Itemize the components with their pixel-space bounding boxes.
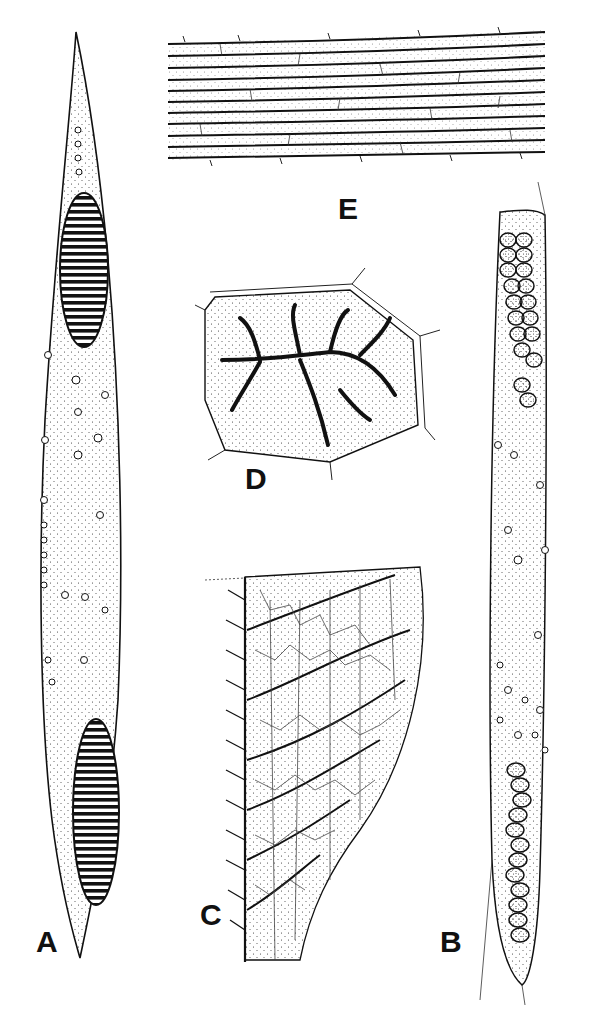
panel-label-b: B bbox=[440, 925, 462, 959]
panel-label-a: A bbox=[36, 925, 58, 959]
panel-e-fibres bbox=[168, 27, 545, 166]
figure-canvas bbox=[0, 0, 590, 1018]
panel-a-cell bbox=[41, 32, 121, 958]
panel-c-leaf bbox=[205, 567, 423, 962]
panel-b-cell bbox=[480, 182, 549, 1005]
panel-label-d: D bbox=[245, 462, 267, 496]
panel-d-cell bbox=[195, 268, 440, 480]
panel-label-c: C bbox=[200, 898, 222, 932]
panel-label-e: E bbox=[338, 192, 358, 226]
